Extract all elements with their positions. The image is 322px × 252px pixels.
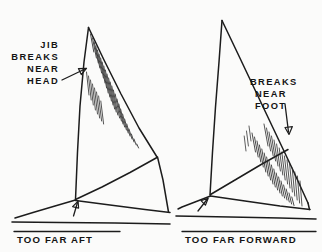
left-callout-line-1: JIB — [40, 40, 59, 50]
diagram-canvas: JIB BREAKS NEAR HEAD TOO FAR AFT — [0, 0, 322, 252]
left-panel-caption: TOO FAR AFT — [17, 234, 93, 245]
left-clew-to-stern-line — [158, 157, 169, 212]
right-callout-line-3: FOOT — [255, 101, 286, 111]
left-leech-line — [89, 28, 158, 158]
left-caption-arrow — [73, 201, 79, 216]
right-luff-line — [210, 21, 222, 196]
left-deck-sheer-line — [76, 201, 171, 213]
left-bow-stem-line — [15, 200, 76, 218]
left-callout-line-3: NEAR — [27, 64, 59, 74]
left-callout-line-4: HEAD — [27, 76, 59, 86]
left-figure-too-far-aft: JIB BREAKS NEAR HEAD TOO FAR AFT — [11, 28, 170, 246]
left-luff-break-hatching — [91, 34, 139, 148]
right-waterline — [176, 216, 316, 219]
left-luff-break-hatching-lower — [87, 72, 104, 124]
right-bow-stem-line — [178, 196, 211, 209]
right-figure-too-far-forward: BREAKS NEAR FOOT TOO FAR FORWARD — [176, 21, 316, 246]
right-callout-line-1: BREAKS — [250, 77, 298, 87]
left-foot-line — [76, 158, 158, 200]
right-foot-line — [211, 196, 311, 210]
right-callout-line-2: NEAR — [255, 89, 287, 99]
left-callout-line-2: BREAKS — [11, 52, 59, 62]
right-upper-flutter-hatching — [244, 126, 251, 151]
right-clew-to-stern-line — [308, 203, 310, 210]
left-waterline — [12, 222, 170, 224]
left-luff-line — [76, 28, 89, 200]
sail-trim-diagram: JIB BREAKS NEAR HEAD TOO FAR AFT — [0, 0, 322, 252]
right-panel-caption: TOO FAR FORWARD — [185, 234, 297, 245]
